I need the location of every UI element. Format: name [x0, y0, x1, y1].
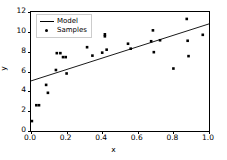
y-tick-label: 8: [21, 47, 26, 55]
data-point: [31, 120, 34, 123]
data-point: [38, 104, 41, 107]
y-tick-mark: [28, 72, 31, 73]
data-point: [186, 39, 189, 42]
data-point: [150, 40, 153, 43]
x-tick-label: 0.6: [122, 134, 152, 142]
data-point: [101, 51, 104, 54]
y-tick-label: 6: [21, 67, 26, 75]
x-tick-label: 0.0: [15, 134, 45, 142]
x-tick-label: 0.2: [51, 134, 81, 142]
y-tick-label: 10: [16, 27, 26, 35]
x-tick-label: 0.4: [86, 134, 116, 142]
data-point: [65, 72, 68, 75]
data-point: [105, 48, 108, 51]
legend-label-samples: Samples: [57, 26, 87, 35]
chart-legend: Model Samples: [36, 14, 92, 38]
legend-marker-swatch: [40, 26, 54, 35]
y-tick-mark: [28, 52, 31, 53]
x-axis-title: x: [0, 145, 227, 154]
y-tick-mark: [28, 111, 31, 112]
data-point: [201, 34, 204, 37]
y-axis-title: y: [0, 66, 8, 70]
y-tick-mark: [28, 12, 31, 13]
legend-item-samples: Samples: [40, 26, 87, 35]
data-point: [91, 54, 94, 57]
data-point: [62, 56, 65, 59]
chart-figure: y 024681012 0.00.20.40.60.81.0 x Model S…: [0, 0, 227, 160]
y-tick-label: 4: [21, 86, 26, 94]
data-point: [86, 46, 89, 49]
y-tick-mark: [28, 91, 31, 92]
x-tick-label: 1.0: [193, 134, 223, 142]
legend-line-swatch: [40, 17, 54, 26]
data-point: [59, 52, 62, 55]
data-point: [45, 84, 48, 87]
data-point: [187, 55, 190, 58]
data-point: [153, 51, 156, 54]
data-point: [159, 39, 162, 42]
legend-label-model: Model: [57, 17, 78, 26]
y-tick-mark: [28, 32, 31, 33]
legend-item-model: Model: [40, 17, 87, 26]
data-point: [152, 29, 155, 32]
data-point: [185, 18, 188, 21]
data-point: [104, 35, 107, 38]
data-point: [35, 104, 38, 107]
data-point: [172, 67, 175, 70]
data-point: [47, 92, 50, 95]
y-tick-label: 2: [21, 106, 26, 114]
data-point: [56, 52, 59, 55]
data-point: [55, 69, 58, 72]
data-point: [127, 42, 130, 45]
data-point: [129, 47, 132, 50]
x-tick-label: 0.8: [157, 134, 187, 142]
y-tick-label: 12: [16, 7, 26, 15]
data-point: [64, 56, 67, 59]
